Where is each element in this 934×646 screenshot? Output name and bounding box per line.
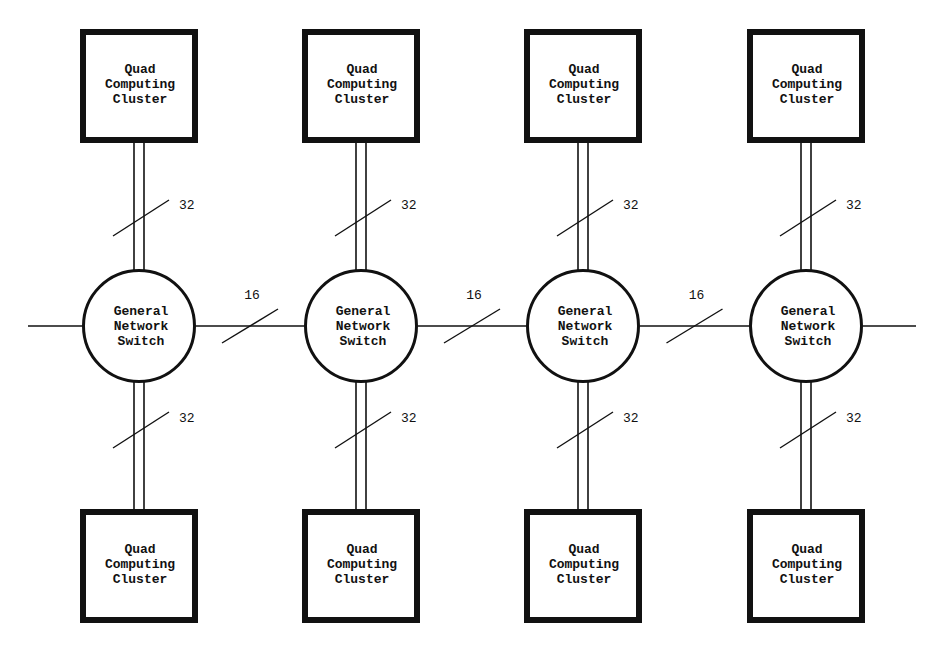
switch-label-line: Network xyxy=(558,319,613,334)
bus-width-label: 32 xyxy=(401,198,417,213)
top-bus: 32 xyxy=(113,143,195,270)
switch-label-line: Switch xyxy=(340,334,387,349)
bus-width-slash xyxy=(335,200,391,236)
bus-width-label: 32 xyxy=(401,411,417,426)
switch-label-line: Network xyxy=(781,319,836,334)
cluster-label-line: Quad xyxy=(791,542,822,557)
bus-width-slash xyxy=(113,200,169,236)
switch-label-line: General xyxy=(114,304,169,319)
general-network-switch: GeneralNetworkSwitch xyxy=(751,271,862,382)
switch-label-line: General xyxy=(558,304,613,319)
switch-link: 16 xyxy=(418,288,526,343)
switch-label-line: General xyxy=(336,304,391,319)
cluster-label-line: Computing xyxy=(327,77,397,92)
top-bus: 32 xyxy=(780,143,862,270)
bus-width-slash xyxy=(557,200,613,236)
bus-width-label: 32 xyxy=(846,198,862,213)
quad-computing-cluster-bottom: QuadComputingCluster xyxy=(305,512,417,620)
cluster-label-line: Quad xyxy=(568,542,599,557)
quad-computing-cluster-bottom: QuadComputingCluster xyxy=(83,512,195,620)
cluster-label-line: Computing xyxy=(549,77,619,92)
cluster-label-line: Computing xyxy=(772,557,842,572)
cluster-label-line: Cluster xyxy=(557,572,612,587)
bus-width-label: 32 xyxy=(623,411,639,426)
bus-width-label: 32 xyxy=(846,411,862,426)
cluster-label-line: Cluster xyxy=(113,92,168,107)
cluster-label-line: Cluster xyxy=(335,92,390,107)
quad-computing-cluster-top: QuadComputingCluster xyxy=(750,32,862,140)
general-network-switch: GeneralNetworkSwitch xyxy=(306,271,417,382)
cluster-label-line: Cluster xyxy=(335,572,390,587)
cluster-label-line: Computing xyxy=(327,557,397,572)
quad-computing-cluster-bottom: QuadComputingCluster xyxy=(527,512,639,620)
quad-computing-cluster-top: QuadComputingCluster xyxy=(527,32,639,140)
quad-computing-cluster-bottom: QuadComputingCluster xyxy=(750,512,862,620)
bottom-bus: 32 xyxy=(780,382,862,509)
cluster-label-line: Quad xyxy=(124,542,155,557)
cluster-label-line: Quad xyxy=(791,62,822,77)
bus-width-label: 32 xyxy=(623,198,639,213)
bus-width-label: 32 xyxy=(179,198,195,213)
network-diagram: 1616163232QuadComputingClusterQuadComput… xyxy=(0,0,934,646)
cluster-label-line: Cluster xyxy=(780,92,835,107)
switch-label-line: Switch xyxy=(118,334,165,349)
general-network-switch: GeneralNetworkSwitch xyxy=(528,271,639,382)
column-3: 3232QuadComputingClusterQuadComputingClu… xyxy=(527,32,639,620)
cluster-label-line: Computing xyxy=(105,557,175,572)
top-bus: 32 xyxy=(557,143,639,270)
quad-computing-cluster-top: QuadComputingCluster xyxy=(305,32,417,140)
cluster-label-line: Computing xyxy=(772,77,842,92)
cluster-label-line: Quad xyxy=(124,62,155,77)
general-network-switch: GeneralNetworkSwitch xyxy=(84,271,195,382)
cluster-label-line: Cluster xyxy=(113,572,168,587)
bus-width-label: 16 xyxy=(466,288,482,303)
bottom-bus: 32 xyxy=(113,382,195,509)
column-2: 3232QuadComputingClusterQuadComputingClu… xyxy=(305,32,417,620)
bus-width-slash xyxy=(113,412,169,448)
cluster-label-line: Computing xyxy=(549,557,619,572)
bus-width-slash xyxy=(335,412,391,448)
cluster-label-line: Cluster xyxy=(780,572,835,587)
switch-label-line: General xyxy=(781,304,836,319)
bus-width-slash xyxy=(557,412,613,448)
bus-width-label: 16 xyxy=(689,288,705,303)
switch-label-line: Switch xyxy=(562,334,609,349)
cluster-label-line: Cluster xyxy=(557,92,612,107)
bottom-bus: 32 xyxy=(335,382,417,509)
switch-label-line: Network xyxy=(114,319,169,334)
bus-width-slash xyxy=(780,200,836,236)
bus-width-label: 32 xyxy=(179,411,195,426)
cluster-label-line: Quad xyxy=(568,62,599,77)
cluster-label-line: Quad xyxy=(346,62,377,77)
switch-label-line: Network xyxy=(336,319,391,334)
cluster-label-line: Computing xyxy=(105,77,175,92)
top-bus: 32 xyxy=(335,143,417,270)
cluster-label-line: Quad xyxy=(346,542,377,557)
column-4: 3232QuadComputingClusterQuadComputingClu… xyxy=(750,32,862,620)
bottom-bus: 32 xyxy=(557,382,639,509)
quad-computing-cluster-top: QuadComputingCluster xyxy=(83,32,195,140)
switch-label-line: Switch xyxy=(785,334,832,349)
switch-link: 16 xyxy=(640,288,749,343)
switch-link: 16 xyxy=(196,288,304,343)
bus-width-label: 16 xyxy=(244,288,260,303)
bus-width-slash xyxy=(780,412,836,448)
column-1: 3232QuadComputingClusterQuadComputingClu… xyxy=(83,32,195,620)
